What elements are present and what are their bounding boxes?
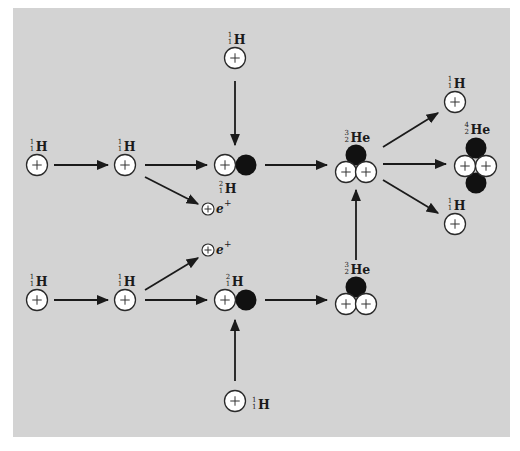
- isotope-label: 11H: [118, 273, 136, 289]
- atomic-number: 1: [228, 38, 232, 46]
- element-symbol: H: [124, 139, 136, 154]
- positron-charge: +: [224, 239, 232, 249]
- atomic-number: 2: [465, 128, 469, 136]
- atomic-number: 1: [30, 280, 34, 288]
- proton: [445, 92, 466, 113]
- proton: [27, 155, 48, 176]
- atomic-number: 2: [345, 268, 349, 276]
- proton: [445, 214, 466, 235]
- proton: [115, 155, 136, 176]
- positron-symbol: e: [216, 243, 224, 257]
- proton: [115, 290, 136, 311]
- neutron: [236, 155, 257, 176]
- proton: [225, 48, 246, 69]
- proton: [455, 156, 476, 177]
- proton: [225, 391, 246, 412]
- diagram-panel: [13, 8, 510, 437]
- atomic-number: 1: [252, 403, 256, 411]
- proton: [356, 294, 377, 315]
- proton: [336, 294, 357, 315]
- element-symbol: He: [351, 262, 371, 277]
- isotope-label: 11H: [252, 396, 270, 412]
- proton: [476, 156, 497, 177]
- isotope-label: 21H: [226, 273, 244, 289]
- proton: [356, 162, 377, 183]
- isotope-label: 32He: [345, 261, 371, 277]
- positron-charge: +: [224, 198, 232, 208]
- element-symbol: H: [124, 274, 136, 289]
- atomic-number: 1: [118, 145, 122, 153]
- isotope-label: 32He: [345, 129, 371, 145]
- atomic-number: 2: [345, 136, 349, 144]
- element-symbol: H: [454, 198, 466, 213]
- proton: [336, 162, 357, 183]
- element-symbol: H: [454, 76, 466, 91]
- proton: [27, 290, 48, 311]
- element-symbol: He: [471, 122, 491, 137]
- isotope-label: 11H: [118, 138, 136, 154]
- element-symbol: He: [351, 130, 371, 145]
- atomic-number: 1: [448, 82, 452, 90]
- isotope-label: 11H: [448, 75, 466, 91]
- isotope-label: 21H: [219, 180, 237, 196]
- positron-symbol: e: [216, 202, 224, 216]
- atomic-number: 1: [219, 187, 223, 195]
- isotope-label: 11H: [30, 138, 48, 154]
- atomic-number: 1: [448, 204, 452, 212]
- element-symbol: H: [234, 32, 246, 47]
- element-symbol: H: [258, 397, 270, 412]
- element-symbol: H: [232, 274, 244, 289]
- proton: [215, 155, 236, 176]
- isotope-label: 42He: [465, 121, 491, 137]
- isotope-label: 11H: [228, 31, 246, 47]
- atomic-number: 1: [30, 145, 34, 153]
- isotope-label: 11H: [448, 197, 466, 213]
- atomic-number: 1: [226, 280, 230, 288]
- neutron: [236, 290, 257, 311]
- proton: [215, 290, 236, 311]
- atomic-number: 1: [118, 280, 122, 288]
- isotope-label: 11H: [30, 273, 48, 289]
- element-symbol: H: [36, 274, 48, 289]
- element-symbol: H: [36, 139, 48, 154]
- proton-proton-chain-diagram: 11H11H11H21H32He11H42He11H11H11H21H11H32…: [0, 0, 520, 451]
- element-symbol: H: [225, 181, 237, 196]
